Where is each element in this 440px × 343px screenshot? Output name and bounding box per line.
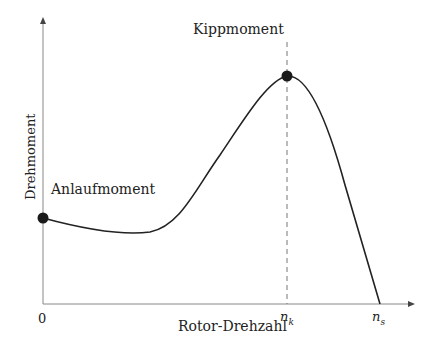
y-axis-arrow-icon bbox=[40, 17, 46, 24]
kippmoment-label: Kippmoment bbox=[193, 21, 284, 37]
x-axis-arrow-icon bbox=[408, 301, 415, 307]
start-torque-dot bbox=[38, 213, 49, 224]
y-axis-label: Drehmoment bbox=[23, 114, 38, 200]
x-tick-origin: 0 bbox=[38, 311, 46, 326]
x-tick-ns: ns bbox=[372, 309, 385, 327]
breakdown-torque-dot bbox=[282, 71, 293, 82]
torque-speed-diagram bbox=[0, 0, 440, 343]
x-tick-nk: nk bbox=[280, 309, 294, 327]
nk-subscript: k bbox=[288, 317, 293, 327]
ns-subscript: s bbox=[380, 317, 385, 327]
x-axis-label: Rotor-Drehzahl bbox=[178, 318, 287, 334]
anlaufmoment-label: Anlaufmoment bbox=[51, 181, 155, 197]
